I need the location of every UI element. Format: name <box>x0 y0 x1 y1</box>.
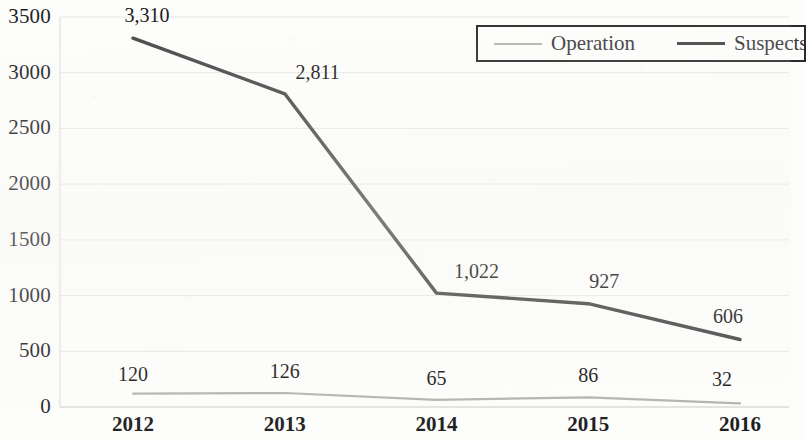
x-tick-label-2012: 2012 <box>83 414 183 435</box>
series-lines <box>133 38 740 403</box>
data-label-suspects-2012: 3,310 <box>97 5 197 25</box>
y-tick-label: 3500 <box>0 6 51 27</box>
x-tick-label-2013: 2013 <box>235 414 335 435</box>
x-tick-label-2014: 2014 <box>387 414 487 435</box>
series-line-suspects <box>133 38 740 339</box>
x-tick-label-2015: 2015 <box>538 414 638 435</box>
x-tick-label-2016: 2016 <box>690 414 790 435</box>
legend-item-suspects: Suspects <box>677 33 806 54</box>
data-label-operation-2012: 120 <box>83 364 183 384</box>
y-tick-label: 2500 <box>0 117 51 138</box>
operation-line-swatch <box>494 43 542 45</box>
data-label-operation-2015: 86 <box>538 365 638 385</box>
data-label-operation-2016: 32 <box>672 369 772 389</box>
data-label-operation-2013: 126 <box>235 361 335 381</box>
chart-legend: Operation Suspects <box>476 25 806 62</box>
data-label-suspects-2013: 2,811 <box>268 62 368 82</box>
legend-label-operation: Operation <box>551 33 635 54</box>
data-label-suspects-2015: 927 <box>554 271 654 291</box>
data-label-suspects-2016: 606 <box>678 306 778 326</box>
y-tick-label: 1000 <box>0 285 51 306</box>
data-label-suspects-2014: 1,022 <box>427 261 527 281</box>
gridlines <box>60 17 789 407</box>
y-tick-label: 3000 <box>0 62 51 83</box>
data-label-operation-2014: 65 <box>387 368 487 388</box>
legend-label-suspects: Suspects <box>734 33 806 54</box>
suspects-line-swatch <box>677 42 725 45</box>
legend-item-operation: Operation <box>494 33 635 54</box>
y-tick-label: 500 <box>0 340 51 361</box>
y-tick-label: 0 <box>0 396 51 417</box>
series-line-operation <box>133 393 740 403</box>
y-tick-label: 2000 <box>0 173 51 194</box>
y-tick-label: 1500 <box>0 229 51 250</box>
